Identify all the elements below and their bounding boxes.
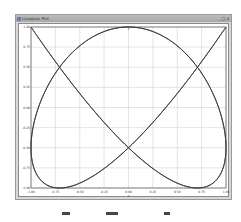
y-tick-label: 0.25: [23, 85, 30, 89]
y-tick-label: -0.50: [22, 146, 30, 150]
lissajous-chart: -1.00-0.75-0.50-0.250.000.250.500.751.00…: [19, 24, 230, 198]
pan-icon[interactable]: [106, 212, 118, 215]
plot-window: Lissajous Plot _ □ × -1.00-0.75-0.50-0.2…: [15, 14, 232, 200]
x-tick-label: -0.25: [100, 190, 108, 194]
x-tick-label: -1.00: [27, 190, 35, 194]
window-title: Lissajous Plot: [22, 15, 49, 22]
x-tick-label: -0.75: [51, 190, 59, 194]
bottom-toolbar: [40, 210, 200, 218]
minimize-button[interactable]: _: [217, 17, 221, 21]
reset-icon[interactable]: [164, 212, 170, 215]
zoom-icon[interactable]: [62, 212, 70, 215]
app-icon: [17, 17, 21, 21]
y-tick-label: 0.75: [23, 45, 30, 49]
x-axis-title: X: [127, 194, 129, 198]
x-tick-label: -0.50: [76, 190, 84, 194]
maximize-button[interactable]: □: [222, 17, 226, 21]
x-tick-label: 0.25: [150, 190, 157, 194]
y-tick-label: 0.00: [23, 106, 30, 110]
x-tick-label: 0.75: [198, 190, 205, 194]
close-button[interactable]: ×: [226, 17, 230, 21]
plot-area[interactable]: -1.00-0.75-0.50-0.250.000.250.500.751.00…: [18, 23, 229, 197]
y-tick-label: -0.25: [22, 126, 30, 130]
y-tick-label: -1.00: [22, 186, 30, 190]
x-tick-label: 0.50: [174, 190, 181, 194]
y-tick-label: -0.75: [22, 166, 30, 170]
y-tick-label: 0.50: [23, 65, 30, 69]
x-tick-label: 1.00: [223, 190, 230, 194]
title-bar[interactable]: Lissajous Plot _ □ ×: [16, 15, 231, 22]
y-tick-label: 1.00: [23, 25, 30, 29]
